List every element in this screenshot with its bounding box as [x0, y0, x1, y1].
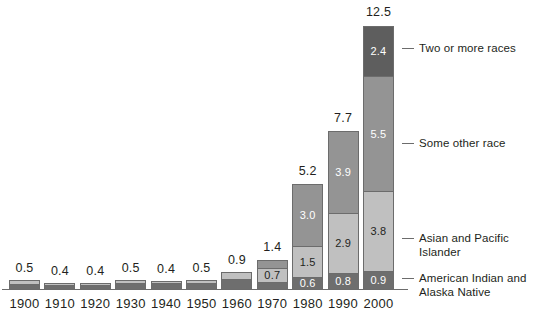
bar-total-label: 0.4 — [86, 265, 104, 278]
bar-total-label: 0.4 — [51, 265, 69, 278]
bar-total-label: 0.9 — [228, 254, 246, 267]
bar-stack — [221, 273, 252, 290]
bar-segment — [186, 283, 217, 290]
bar-segment: 2.4 — [363, 26, 394, 77]
bar-segment: 3.0 — [292, 184, 323, 248]
bar-segment-value: 0.9 — [371, 275, 387, 286]
legend-entry-asian-and-pacific-islander: Asian and Pacific Islander — [402, 231, 544, 259]
x-tick-label: 1950 — [184, 296, 219, 311]
bar-stack — [44, 284, 75, 290]
bar-stack: 2.45.53.80.9 — [363, 27, 394, 290]
bar-segment-value: 3.0 — [300, 210, 316, 221]
bar-group: 3.01.50.65.2 — [292, 182, 323, 290]
bar-segment-value: 5.5 — [371, 129, 387, 140]
bar-stack: 0.40.70.4 — [257, 261, 288, 290]
bar-segment: 0.9 — [363, 271, 394, 290]
bar-group: 0.4 — [80, 282, 111, 290]
bar-segment: 0.7 — [257, 268, 288, 283]
x-tick-label: 1990 — [326, 296, 361, 311]
bar-total-label: 7.7 — [334, 112, 352, 125]
bar-segment — [44, 285, 75, 290]
x-tick-label: 1940 — [149, 296, 184, 311]
bar-total-label: 5.2 — [299, 165, 317, 178]
bar-segment: 1.5 — [292, 246, 323, 278]
x-tick-label: 1900 — [7, 296, 42, 311]
x-tick-label: 1910 — [42, 296, 77, 311]
x-tick-label: 2000 — [361, 296, 396, 311]
bar-stack — [151, 282, 182, 290]
x-tick-label: 1920 — [78, 296, 113, 311]
bar-group: 0.4 — [151, 280, 182, 290]
bar-segment: 5.5 — [363, 76, 394, 193]
bar-stack — [186, 281, 217, 290]
bar-total-label: 0.5 — [193, 262, 211, 275]
bar-group: 0.5 — [115, 279, 146, 290]
bar-stack — [9, 281, 40, 290]
bar-group: 3.92.90.87.7 — [328, 129, 359, 290]
bar-total-label: 0.4 — [157, 263, 175, 276]
bar-segment-value: 3.8 — [371, 226, 387, 237]
bar-segment — [151, 283, 182, 290]
legend-label: Two or more races — [419, 41, 516, 55]
bar-segment-value: 1.5 — [300, 257, 316, 268]
x-tick-label: 1970 — [255, 296, 290, 311]
bar-segment-value: 2.9 — [335, 238, 351, 249]
bar-total-label: 0.5 — [122, 262, 140, 275]
legend-entry-some-other-race: Some other race — [402, 136, 506, 150]
bar-total-label: 12.5 — [366, 6, 391, 19]
legend-label: Some other race — [419, 136, 506, 150]
bar-segment — [221, 279, 252, 290]
bar-group: 2.45.53.80.912.5 — [363, 23, 394, 290]
bar-segment: 0.8 — [328, 273, 359, 290]
bar-segment — [115, 283, 146, 290]
bar-segment — [9, 284, 40, 290]
bar-segment-value: 2.4 — [371, 46, 387, 57]
bar-stack: 3.01.50.6 — [292, 185, 323, 290]
bar-total-label: 0.5 — [16, 262, 34, 275]
legend-entry-american-indian-and-alaska-native: American Indian and Alaska Native — [402, 271, 526, 299]
leader-line-icon — [402, 143, 414, 144]
bar-stack — [115, 281, 146, 290]
bar-stack: 3.92.90.8 — [328, 132, 359, 290]
stacked-bar-chart: 0.50.40.40.50.40.50.90.40.70.41.43.01.50… — [0, 0, 544, 315]
chart-legend: Two or more races Some other race Asian … — [402, 0, 544, 315]
bar-segment-value: 0.6 — [300, 278, 316, 289]
legend-entry-two-or-more-races: Two or more races — [402, 41, 516, 55]
bar-group: 0.40.70.41.4 — [257, 258, 288, 290]
bar-segment-value: 3.9 — [335, 167, 351, 178]
bar-segment: 3.9 — [328, 131, 359, 214]
bar-group: 0.5 — [9, 279, 40, 290]
x-tick-label: 1930 — [113, 296, 148, 311]
x-tick-label: 1980 — [290, 296, 325, 311]
leader-line-icon — [402, 48, 414, 49]
bar-group: 0.5 — [186, 279, 217, 290]
legend-label: American Indian and Alaska Native — [419, 271, 526, 299]
bar-segment-value: 0.8 — [335, 276, 351, 287]
bar-group: 0.9 — [221, 271, 252, 290]
bar-stack — [80, 284, 111, 290]
x-tick-label: 1960 — [219, 296, 254, 311]
bar-group: 0.4 — [44, 282, 75, 290]
legend-label: Asian and Pacific Islander — [419, 231, 544, 259]
bar-segment: 3.8 — [363, 191, 394, 272]
bar-segment-value: 0.7 — [264, 270, 280, 281]
leader-line-icon — [402, 238, 414, 239]
bar-segment: 0.4 — [257, 282, 288, 290]
bar-segment: 2.9 — [328, 213, 359, 274]
bar-total-label: 1.4 — [263, 241, 281, 254]
bar-segment — [80, 285, 111, 290]
bar-segment: 0.6 — [292, 277, 323, 290]
plot-area: 0.50.40.40.50.40.50.90.40.70.41.43.01.50… — [0, 0, 410, 315]
leader-line-icon — [402, 278, 414, 279]
